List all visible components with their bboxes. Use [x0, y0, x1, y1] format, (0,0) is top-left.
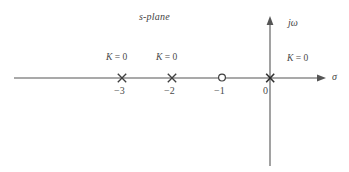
- k-value: = 0: [293, 53, 308, 63]
- s-plane-root-locus-figure: s-plane jω σ K = 0 K = 0 K = 0 −3 −2 −1 …: [0, 0, 349, 172]
- tick-label-minus-1: −1: [214, 86, 225, 96]
- k-value: = 0: [162, 52, 177, 62]
- tick-label-zero: 0: [263, 86, 268, 96]
- tick-label-minus-2: −2: [164, 86, 175, 96]
- sigma-axis-arrowhead: [317, 75, 326, 82]
- k-value: = 0: [112, 52, 127, 62]
- sigma-axis-label: σ: [332, 72, 337, 82]
- tick-label-minus-3: −3: [114, 86, 125, 96]
- k-equals-zero-at-origin: K = 0: [287, 54, 308, 64]
- k-equals-zero-at-minus-2: K = 0: [156, 53, 177, 63]
- figure-title: s-plane: [139, 12, 170, 22]
- jomega-axis-arrowhead: [267, 16, 274, 25]
- k-equals-zero-at-minus-3: K = 0: [106, 53, 127, 63]
- jomega-axis-label: jω: [288, 18, 298, 28]
- zero-marker-minus-1: [219, 74, 226, 81]
